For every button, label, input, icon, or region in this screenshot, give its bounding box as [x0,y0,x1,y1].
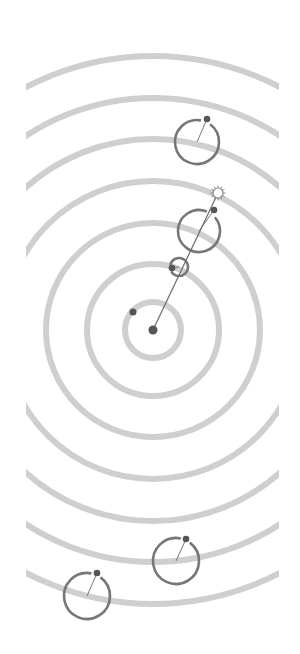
free-body-dot [130,309,137,316]
diagram-canvas [0,0,300,654]
orbit-radius [87,573,97,596]
sun-disc [213,188,223,198]
orbiting-body-dot [204,116,211,123]
small-orbit [169,258,188,276]
central-body-dot [149,326,158,335]
orbit-radius [197,119,207,142]
bodies [130,309,158,335]
orbital-diagram [0,0,300,654]
orbiting-body-dot [183,536,190,543]
orbiting-body-dot [94,570,101,577]
orbits [64,116,220,619]
orbiting-body-dot [169,265,176,272]
